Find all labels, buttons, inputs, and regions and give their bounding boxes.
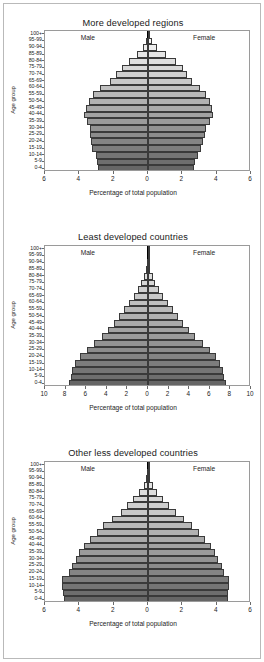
y-tick-mark — [42, 67, 44, 68]
bar-male — [139, 489, 148, 496]
x-tick-label: 2 — [180, 606, 184, 613]
y-tick-label: 85-89 — [4, 51, 42, 56]
y-tick-mark — [42, 101, 44, 102]
bar-male — [124, 306, 148, 313]
y-tick-mark — [42, 134, 44, 135]
bar-male — [72, 367, 148, 374]
y-tick-mark — [42, 107, 44, 108]
x-tick-mark — [78, 602, 79, 605]
y-tick-mark — [42, 498, 44, 499]
bar-male — [102, 333, 148, 340]
bar-female — [148, 159, 195, 166]
y-tick-mark — [42, 471, 44, 472]
y-axis-tick-labels: 100+95-9990-9485-8980-8475-7970-7465-696… — [4, 30, 42, 171]
bar-male — [114, 320, 148, 327]
y-tick-mark — [42, 47, 44, 48]
bar-male — [96, 152, 148, 159]
bar-female — [148, 482, 153, 489]
y-tick-label: 35-39 — [4, 549, 42, 554]
y-tick-label: 100+ — [4, 31, 42, 36]
bar-female — [148, 576, 229, 583]
y-tick-mark — [42, 349, 44, 350]
plot-area: Male Female — [44, 461, 250, 602]
bar-male — [116, 71, 148, 78]
bar-group — [45, 31, 249, 171]
x-tick-label: 8 — [228, 390, 232, 397]
bar-female — [148, 132, 205, 139]
x-tick-label: 0 — [145, 606, 149, 613]
bar-male — [141, 280, 148, 287]
y-tick-mark — [42, 80, 44, 81]
x-axis: 6420246 — [44, 602, 250, 618]
bar-male — [79, 549, 148, 556]
bar-female — [148, 118, 210, 125]
bar-female — [148, 152, 198, 159]
x-tick-label: 2 — [166, 390, 170, 397]
y-axis-tick-labels: 100+95-9990-9485-8980-8475-7970-7465-696… — [4, 245, 42, 386]
bar-male — [121, 509, 148, 516]
bar-female — [148, 569, 224, 576]
y-tick-label: 70-74 — [4, 71, 42, 76]
y-tick-mark — [42, 262, 44, 263]
y-tick-mark — [42, 316, 44, 317]
bar-row — [45, 353, 249, 360]
y-tick-label: 85-89 — [4, 482, 42, 487]
x-tick-mark — [65, 386, 66, 389]
bar-row — [45, 145, 249, 152]
pyramid-chart-other-less-developed-countries: Other less developed countries Age group… — [4, 438, 262, 656]
x-tick-mark — [147, 602, 148, 605]
y-tick-mark — [42, 572, 44, 573]
bar-female — [148, 31, 150, 38]
bar-row — [45, 138, 249, 145]
y-tick-label: 45-49 — [4, 536, 42, 541]
y-tick-mark — [42, 141, 44, 142]
bar-female — [148, 469, 150, 476]
x-tick-label: 2 — [180, 175, 184, 182]
y-tick-mark — [42, 342, 44, 343]
bar-female — [148, 522, 192, 529]
bar-female — [148, 347, 210, 354]
x-tick-mark — [113, 171, 114, 174]
bar-row — [45, 496, 249, 503]
bar-row — [45, 58, 249, 65]
y-tick-mark — [42, 478, 44, 479]
y-tick-label: 40-44 — [4, 542, 42, 547]
x-axis: 1086420246810 — [44, 386, 250, 402]
bar-male — [127, 502, 148, 509]
bar-row — [45, 293, 249, 300]
y-tick-label: 30-34 — [4, 556, 42, 561]
x-tick-mark — [106, 386, 107, 389]
bar-female — [148, 556, 218, 563]
bar-male — [93, 91, 148, 98]
bar-female — [148, 502, 169, 509]
y-tick-label: 30-34 — [4, 340, 42, 345]
y-tick-label: 100+ — [4, 246, 42, 251]
bar-female — [148, 367, 223, 374]
y-tick-mark — [42, 248, 44, 249]
bar-female — [148, 58, 176, 65]
bar-female — [148, 563, 222, 570]
bar-male — [119, 313, 148, 320]
bar-female — [148, 489, 157, 496]
bar-male — [63, 590, 148, 597]
y-tick-label: 15-19 — [4, 145, 42, 150]
bar-row — [45, 320, 249, 327]
y-tick-mark — [42, 33, 44, 34]
y-tick-mark — [42, 505, 44, 506]
bar-male — [110, 78, 148, 85]
bar-female — [148, 246, 150, 253]
y-tick-label: 25-29 — [4, 562, 42, 567]
y-tick-label: 40-44 — [4, 326, 42, 331]
bar-male — [76, 556, 148, 563]
y-tick-mark — [42, 356, 44, 357]
x-tick-label: 8 — [63, 390, 67, 397]
x-tick-mark — [113, 602, 114, 605]
x-tick-mark — [147, 171, 148, 174]
bar-row — [45, 38, 249, 45]
y-tick-mark — [42, 599, 44, 600]
bar-male — [90, 536, 148, 543]
bar-row — [45, 85, 249, 92]
bar-male — [91, 138, 148, 145]
y-tick-mark — [42, 565, 44, 566]
bar-group — [45, 462, 249, 602]
